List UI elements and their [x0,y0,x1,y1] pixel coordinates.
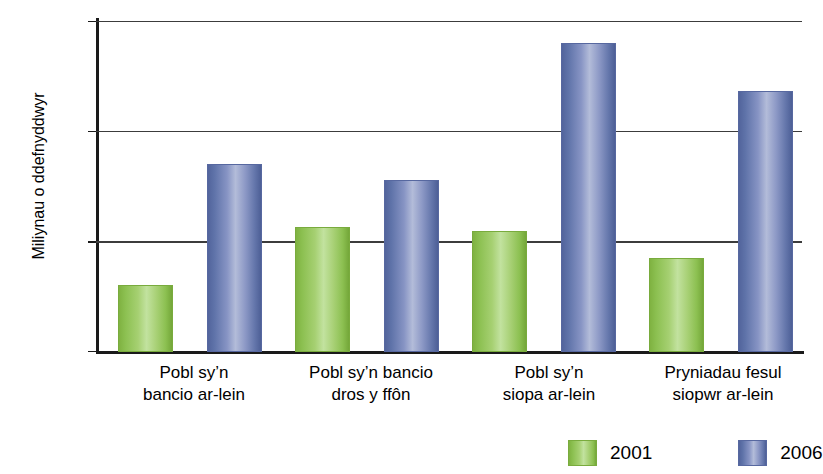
x-axis-label-group-4-line2: siopwr ar-lein [628,384,818,406]
bar-2001-group-2 [295,227,350,352]
x-axis-label-group-2-line1: Pobl sy’n bancio [276,362,466,384]
y-tick-mark-10 [88,241,96,243]
x-axis-label-group-4-line1: Pryniadau fesul [628,362,818,384]
bar-2006-group-4 [738,91,793,353]
x-axis-label-group-1-line2: bancio ar-lein [104,384,284,406]
y-tick-mark-20 [88,131,96,133]
x-axis-label-group-2: Pobl sy’n bancio dros y ffôn [276,362,466,406]
plot-area: 0 10 20 30 [96,20,802,352]
x-axis-label-group-1-line1: Pobl sy’n [104,362,284,384]
bar-2001-group-1 [118,285,173,352]
gridline-30 [96,21,802,23]
legend-swatch-2001-icon [568,440,597,466]
x-axis-label-group-2-line2: dros y ffôn [276,384,466,406]
legend-label-2001: 2001 [610,442,652,464]
legend: 2001 2006 [568,440,823,466]
legend-spacer [652,453,738,454]
legend-label-2006: 2006 [780,442,822,464]
x-axis-label-group-1: Pobl sy’n bancio ar-lein [104,362,284,406]
bar-2001-group-4 [649,258,704,352]
bar-2006-group-2 [384,180,439,352]
y-tick-mark-0 [88,351,96,353]
bar-2006-group-1 [207,164,262,352]
x-axis-label-group-4: Pryniadau fesul siopwr ar-lein [628,362,818,406]
legend-swatch-2006-icon [738,440,767,466]
x-axis-label-group-3: Pobl sy’n siopa ar-lein [459,362,639,406]
gridline-10 [96,241,802,243]
y-axis-title: Miliynau o ddefnyddwyr [26,0,52,352]
x-axis-label-group-3-line1: Pobl sy’n [459,362,639,384]
x-axis-label-group-3-line2: siopa ar-lein [459,384,639,406]
legend-item-2006: 2006 [738,440,822,466]
bar-2006-group-3 [561,43,616,352]
bar-2001-group-3 [472,231,527,352]
legend-item-2001: 2001 [568,440,652,466]
y-tick-mark-30 [88,21,96,23]
gridline-20 [96,131,802,133]
